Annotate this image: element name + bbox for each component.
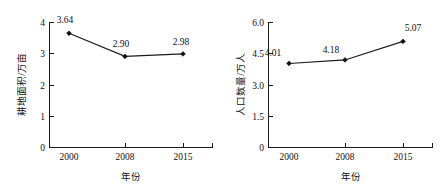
y-tick-label: 4.5 bbox=[252, 49, 264, 59]
chart-panel-population: 01.53.04.56.02000200820154.014.185.07年份人… bbox=[222, 0, 445, 191]
line-chart-cultivated-land: 012342000200820153.642.902.98年份耕地面积/万亩 bbox=[0, 0, 222, 191]
data-point-label: 2.98 bbox=[173, 37, 190, 47]
x-tick-label: 2015 bbox=[394, 152, 413, 162]
data-point-marker bbox=[343, 58, 348, 63]
x-axis-title: 年份 bbox=[341, 171, 361, 182]
y-tick-label: 2 bbox=[40, 81, 45, 91]
x-tick-label: 2000 bbox=[60, 152, 79, 162]
data-point-marker bbox=[67, 31, 72, 36]
data-point-marker bbox=[401, 39, 406, 44]
x-tick-label: 2008 bbox=[116, 152, 135, 162]
y-tick-label: 4 bbox=[40, 18, 45, 28]
figure-container: 012342000200820153.642.902.98年份耕地面积/万亩 0… bbox=[0, 0, 445, 191]
data-point-marker bbox=[181, 51, 186, 56]
y-tick-label: 1.5 bbox=[252, 112, 264, 122]
y-tick-label: 0 bbox=[40, 143, 45, 153]
data-point-label: 4.18 bbox=[323, 45, 340, 55]
data-point-label: 4.01 bbox=[265, 48, 282, 58]
x-tick-label: 2008 bbox=[336, 152, 355, 162]
x-tick-label: 2000 bbox=[280, 152, 299, 162]
data-point-label: 5.07 bbox=[405, 23, 422, 33]
y-axis-title: 耕地面积/万亩 bbox=[16, 53, 27, 116]
y-tick-label: 0 bbox=[259, 143, 264, 153]
chart-panel-cultivated-land: 012342000200820153.642.902.98年份耕地面积/万亩 bbox=[0, 0, 222, 191]
data-point-label: 2.90 bbox=[113, 39, 130, 49]
y-tick-label: 3.0 bbox=[252, 81, 264, 91]
x-tick-label: 2015 bbox=[174, 152, 193, 162]
data-point-marker bbox=[287, 61, 292, 66]
y-tick-label: 3 bbox=[40, 49, 45, 59]
y-axis-title: 人口数量/万人 bbox=[235, 53, 246, 116]
y-tick-label: 1 bbox=[40, 112, 45, 122]
data-point-marker bbox=[123, 54, 128, 59]
line-chart-population: 01.53.04.56.02000200820154.014.185.07年份人… bbox=[222, 0, 445, 191]
x-axis-title: 年份 bbox=[121, 171, 141, 182]
data-point-label: 3.64 bbox=[57, 15, 74, 25]
y-tick-label: 6.0 bbox=[252, 18, 264, 28]
